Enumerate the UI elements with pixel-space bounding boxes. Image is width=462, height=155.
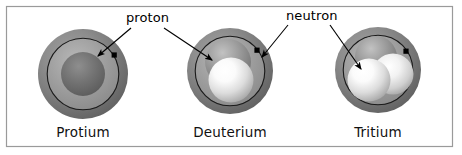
caption-protium: Protium <box>56 124 110 140</box>
tritium-proton <box>348 59 391 102</box>
protium-electron <box>112 52 117 57</box>
atom-deuterium <box>187 28 273 114</box>
isotope-diagram: proton neutron Protium Deuterium Tritium <box>0 0 462 155</box>
atom-tritium <box>335 27 421 113</box>
tritium-electron <box>403 49 408 54</box>
caption-deuterium: Deuterium <box>193 124 267 140</box>
label-proton: proton <box>126 10 169 25</box>
isotope-diagram-canvas: proton neutron Protium Deuterium Tritium <box>0 0 462 155</box>
protium-proton <box>61 52 105 96</box>
caption-tritium: Tritium <box>353 124 402 140</box>
leader-neutron-to-deuterium <box>262 25 288 57</box>
deuterium-electron <box>254 48 259 53</box>
deuterium-proton <box>209 58 254 103</box>
label-neutron: neutron <box>286 8 338 23</box>
